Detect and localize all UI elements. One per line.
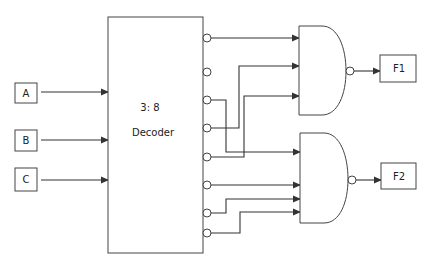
decoder-output-bubbles — [203, 34, 211, 237]
gate-2-bubble — [348, 176, 356, 184]
nand-gate-2 — [300, 133, 356, 223]
bubble-out-8 — [203, 229, 211, 237]
bubble-out-6 — [203, 181, 211, 189]
output-f1-label: F1 — [393, 63, 405, 74]
output-f1: F1 — [380, 55, 416, 82]
input-a-label: A — [23, 88, 30, 99]
input-b-label: B — [23, 135, 30, 146]
bubble-out-2 — [203, 68, 211, 76]
bubble-out-3 — [203, 96, 211, 104]
bubble-out-1 — [203, 34, 211, 42]
bubble-out-5 — [203, 153, 211, 161]
gate-1-bubble — [346, 67, 354, 75]
nand-gate-1 — [299, 26, 354, 115]
output-f2: F2 — [381, 163, 416, 189]
wires-gate-1 — [211, 38, 299, 157]
input-a: A — [15, 83, 37, 103]
decoder-label: Decoder — [132, 127, 175, 138]
wires-gate-2 — [211, 100, 300, 233]
output-f2-label: F2 — [393, 171, 405, 182]
circuit-diagram: A B C 3: 8 Decoder — [0, 0, 432, 267]
bubble-out-7 — [203, 209, 211, 217]
input-c: C — [15, 168, 37, 191]
decoder-ratio: 3: 8 — [140, 102, 159, 113]
input-c-label: C — [23, 174, 30, 185]
bubble-out-4 — [203, 124, 211, 132]
decoder-block: 3: 8 Decoder — [108, 17, 203, 253]
input-b: B — [15, 130, 37, 151]
